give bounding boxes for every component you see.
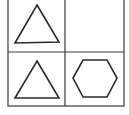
shape-grid	[7, 0, 125, 108]
grid-border	[8, 0, 124, 106]
grid-svg	[7, 0, 125, 108]
cell-1-1-hexagon-shape	[73, 60, 117, 97]
cell-0-0-triangle-shape	[15, 5, 59, 43]
cell-1-0-triangle-shape	[15, 61, 59, 98]
